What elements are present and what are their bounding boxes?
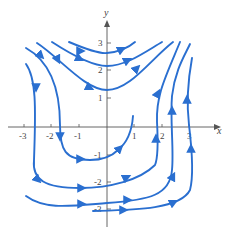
x-tick-label: -3 [19, 131, 27, 141]
trajectory-left-outer [26, 42, 180, 188]
x-tick-label: 1 [132, 131, 137, 141]
x-tick-label: -2 [46, 131, 54, 141]
y-tick-label: 1 [98, 93, 103, 103]
x-axis-label: x [216, 125, 222, 136]
x-tick-label: 2 [160, 131, 165, 141]
y-tick-label: 3 [98, 38, 103, 48]
axes: x y -3 -2 -1 1 2 3 3 2 1 -1 -2 -3 [8, 7, 222, 227]
y-axis-arrow-icon [104, 20, 110, 27]
y-axis-label: y [103, 7, 109, 18]
phase-portrait: x y -3 -2 -1 1 2 3 3 2 1 -1 -2 -3 [0, 0, 227, 241]
y-tick-label: -2 [94, 177, 102, 187]
trajectory-bottom-2 [93, 58, 192, 211]
y-tick-label: -3 [94, 204, 102, 214]
x-tick-label: -1 [74, 131, 82, 141]
